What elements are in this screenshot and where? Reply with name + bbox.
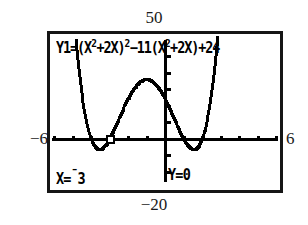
y-min-label: −20 [0, 196, 308, 213]
x-min-label: −6 [12, 130, 48, 147]
x-max-label: 6 [286, 130, 308, 147]
trace-y-readout: Y=0 [168, 168, 190, 183]
trace-cursor-marker[interactable] [107, 136, 114, 143]
calculator-screenshot: 50 −6 6 −20 Y1=(X2+2X)2−11(X2+2X)+24 X=¯… [0, 0, 308, 225]
trace-x-readout: X=¯3 [56, 168, 85, 186]
function-graph [50, 34, 280, 190]
y-max-label: 50 [0, 9, 308, 26]
axes-group [52, 40, 278, 182]
equation-label: Y1=(X2+2X)2−11(X2+2X)+24 [56, 38, 219, 55]
calculator-display[interactable]: Y1=(X2+2X)2−11(X2+2X)+24 X=¯3 Y=0 [47, 31, 283, 193]
graph-plot-area[interactable] [50, 34, 280, 190]
